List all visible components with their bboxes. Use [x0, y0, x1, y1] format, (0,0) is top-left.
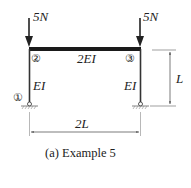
span-dimension-label: 2L	[75, 116, 89, 131]
beam-stiffness-label: 2EI	[77, 51, 96, 66]
figure-caption: (a) Example 5	[45, 146, 116, 160]
load-label-left: 5N	[33, 9, 50, 24]
left-pin-support-icon	[21, 102, 38, 109]
node-label-3: ③	[125, 52, 135, 64]
right-pin-support-icon	[132, 102, 149, 109]
portal-frame-diagram: 5N 5N ② ③ ① 2EI EI EI L	[0, 0, 191, 188]
node-label-1: ①	[13, 91, 23, 103]
load-label-right: 5N	[143, 9, 160, 24]
height-dimension-label: L	[175, 71, 183, 86]
right-column-stiffness-label: EI	[123, 78, 137, 93]
height-dimension	[150, 50, 176, 106]
load-arrow-left	[25, 18, 33, 47]
node-label-2: ②	[31, 52, 41, 64]
left-column-stiffness-label: EI	[32, 78, 46, 93]
